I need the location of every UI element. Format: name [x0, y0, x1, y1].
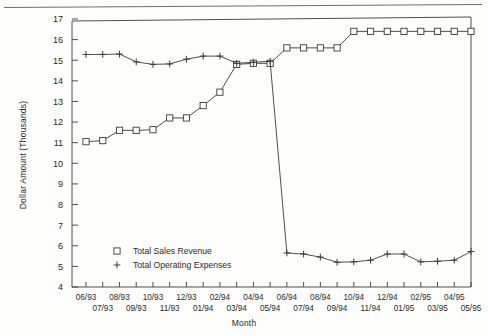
svg-text:06/93: 06/93	[76, 293, 97, 302]
svg-text:02/94: 02/94	[210, 293, 231, 302]
svg-text:Total Sales Revenue: Total Sales Revenue	[133, 246, 212, 256]
svg-text:12: 12	[53, 117, 63, 127]
svg-text:03/94: 03/94	[226, 304, 247, 313]
svg-text:4: 4	[58, 282, 63, 292]
svg-text:15: 15	[53, 56, 63, 66]
svg-text:08/94: 08/94	[310, 293, 331, 302]
svg-text:9: 9	[58, 179, 63, 189]
chart-figure: Dollar Amount (Thousands) Month 45678910…	[0, 0, 488, 336]
svg-text:04/95: 04/95	[444, 293, 465, 302]
svg-text:16: 16	[53, 35, 63, 45]
data-series-group	[83, 28, 475, 265]
svg-text:04/94: 04/94	[243, 293, 264, 302]
svg-text:10/94: 10/94	[344, 293, 365, 302]
svg-text:5: 5	[58, 262, 63, 272]
svg-text:11: 11	[54, 138, 63, 148]
chart-legend: Total Sales RevenueTotal Operating Expen…	[114, 246, 232, 270]
plot-frame	[72, 17, 471, 287]
svg-text:11/93: 11/93	[160, 304, 180, 313]
svg-text:01/95: 01/95	[394, 304, 415, 313]
svg-text:05/95: 05/95	[461, 304, 482, 313]
svg-text:09/94: 09/94	[327, 304, 348, 313]
svg-text:06/94: 06/94	[277, 293, 298, 302]
svg-text:14: 14	[53, 76, 63, 86]
svg-text:12/93: 12/93	[176, 293, 197, 302]
legend-item: Total Sales Revenue	[114, 246, 212, 256]
svg-text:10/93: 10/93	[143, 293, 164, 302]
svg-text:07/93: 07/93	[92, 304, 113, 313]
series-total-operating-expenses	[83, 51, 475, 266]
svg-text:01/94: 01/94	[193, 304, 214, 313]
y-axis-ticks: 4567891011121314151617	[53, 14, 78, 292]
svg-text:Total Operating Expenses: Total Operating Expenses	[133, 260, 231, 270]
svg-text:05/94: 05/94	[260, 304, 281, 313]
svg-text:07/94: 07/94	[293, 304, 314, 313]
svg-text:10: 10	[53, 159, 63, 169]
svg-text:02/95: 02/95	[411, 293, 432, 302]
legend-item: Total Operating Expenses	[114, 260, 232, 270]
svg-text:12/94: 12/94	[377, 293, 398, 302]
series-total-sales-revenue	[83, 28, 474, 144]
svg-text:7: 7	[58, 221, 63, 231]
svg-text:8: 8	[58, 200, 63, 210]
svg-text:03/95: 03/95	[427, 304, 448, 313]
plot-area: 4567891011121314151617 06/9307/9308/9309…	[0, 0, 488, 336]
svg-text:13: 13	[53, 97, 63, 107]
svg-text:6: 6	[58, 241, 63, 251]
svg-text:11/94: 11/94	[361, 304, 381, 313]
svg-text:09/93: 09/93	[126, 304, 147, 313]
svg-text:17: 17	[53, 14, 63, 24]
svg-text:08/93: 08/93	[109, 293, 130, 302]
